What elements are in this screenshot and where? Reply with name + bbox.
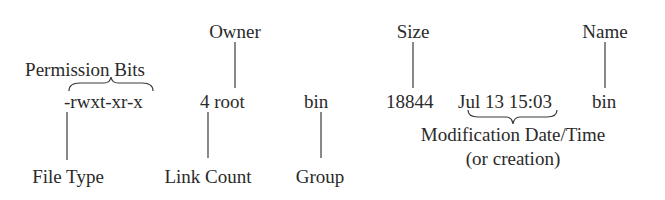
size-label: Size: [397, 22, 430, 41]
name-value: bin: [592, 92, 616, 111]
name-label: Name: [582, 22, 627, 41]
permissions-value: -rwxt-xr-x: [64, 92, 143, 111]
mod-time-sublabel: (or creation): [466, 149, 560, 168]
datetime-value: Jul 13 15:03: [458, 92, 552, 111]
link-count-owner-value: 4 root: [200, 92, 245, 111]
file-type-label: File Type: [32, 167, 104, 186]
mod-time-brace: [468, 110, 557, 124]
mod-time-label: Modification Date/Time: [421, 125, 606, 144]
link-count-label: Link Count: [164, 167, 251, 186]
size-value: 18844: [386, 92, 434, 111]
group-value: bin: [304, 92, 328, 111]
group-label: Group: [296, 167, 345, 186]
permission-bits-label: Permission Bits: [25, 60, 145, 79]
owner-label: Owner: [209, 22, 261, 41]
